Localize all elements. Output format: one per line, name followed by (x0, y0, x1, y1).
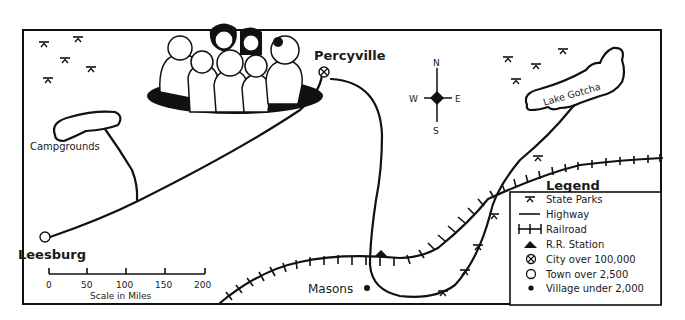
legend-label-village: Village under 2,000 (546, 283, 644, 294)
state-park-icon (60, 58, 70, 63)
state-park-icon (43, 78, 53, 83)
lake-gotcha (526, 48, 624, 110)
town-icon (40, 232, 50, 242)
state-park-icon (73, 37, 83, 42)
legend-label-rr-station: R.R. Station (546, 239, 604, 250)
compass-w: W (409, 94, 418, 104)
campgrounds-label: Campgrounds (30, 141, 100, 152)
scale-tick-200: 200 (194, 280, 211, 290)
compass-n: N (433, 58, 440, 68)
compass-rose (424, 68, 452, 122)
scale-bar (49, 268, 205, 274)
city-icon (527, 255, 536, 264)
compass-e: E (455, 94, 461, 104)
map-canvas: Percyville Leesburg Masons Campgrounds L… (0, 0, 685, 320)
masons-label: Masons (308, 282, 353, 296)
scale-tick-50: 50 (81, 280, 93, 290)
scale-caption: Scale in Miles (90, 291, 151, 301)
scale-tick-100: 100 (116, 280, 133, 290)
characters-illustration (147, 23, 323, 114)
highways (50, 75, 574, 297)
village-icon (364, 285, 370, 291)
state-park-icon (531, 64, 541, 69)
percyville-label: Percyville (314, 48, 386, 63)
legend-title: Legend (546, 178, 600, 193)
village-icon (528, 285, 533, 290)
legend-label-state-parks: State Parks (546, 194, 602, 205)
state-park-icon (39, 42, 49, 47)
rr-station-icon (374, 250, 388, 257)
leesburg-label: Leesburg (18, 247, 86, 262)
state-park-icon (533, 156, 543, 161)
legend-label-railroad: Railroad (546, 224, 587, 235)
town-icon (527, 270, 536, 279)
state-park-icon (503, 57, 513, 62)
state-park-icon (558, 49, 568, 54)
state-park-icon (86, 67, 96, 72)
city-icon (319, 67, 329, 77)
scale-tick-0: 0 (46, 280, 52, 290)
legend-label-town: Town over 2,500 (545, 269, 628, 280)
state-park-icon (511, 79, 521, 84)
legend: Legend State Parks Highway Railroad R.R.… (510, 178, 661, 305)
legend-label-city: City over 100,000 (546, 254, 636, 265)
legend-label-highway: Highway (546, 209, 589, 220)
state-parks (39, 37, 568, 296)
scale-tick-150: 150 (155, 280, 172, 290)
compass-s: S (433, 126, 439, 136)
